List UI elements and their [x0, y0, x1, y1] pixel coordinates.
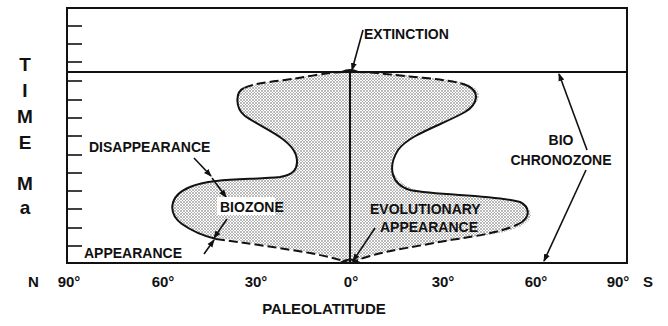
y-axis-label: T I M E M a: [17, 54, 33, 218]
label-biozone: BIOZONE: [220, 199, 284, 215]
x-tick-label: 30°: [432, 273, 455, 290]
label-chronozone: CHRONOZONE: [510, 152, 611, 168]
disappearance-arrow: [194, 158, 211, 176]
x-axis-title: PALEOLATITUDE: [262, 300, 386, 317]
y-label-letter: T: [19, 54, 31, 75]
label-appearance: APPEARANCE: [84, 245, 182, 261]
biozone-diagram: T I M E M a N 90° 60° 30° 0° 30° 60° 90°…: [0, 0, 668, 326]
y-axis-ticks: [67, 26, 82, 246]
y-label-letter: I: [22, 80, 27, 101]
x-tick-label: 60°: [152, 273, 175, 290]
label-evolutionary: EVOLUTIONARY: [370, 201, 481, 217]
appearance-arrow: [204, 240, 214, 254]
x-tick-label: 60°: [525, 273, 548, 290]
y-label-letter: E: [19, 132, 32, 153]
x-axis-ticks: N 90° 60° 30° 0° 30° 60° 90° S: [28, 273, 653, 290]
extinction-arrow: [352, 30, 363, 70]
label-bio: BIO: [549, 132, 574, 148]
label-evolutionary-appearance: APPEARANCE: [380, 219, 478, 235]
x-tick-label: 90°: [58, 273, 81, 290]
x-tick-label: 90°: [607, 273, 630, 290]
x-tick-label: 0°: [344, 273, 358, 290]
label-extinction: EXTINCTION: [364, 26, 449, 42]
south-marker: S: [643, 273, 653, 290]
north-marker: N: [28, 273, 39, 290]
y-label-letter: M: [17, 173, 33, 194]
y-label-letter: M: [17, 106, 33, 127]
chronozone-bottom-arrow: [544, 170, 586, 261]
y-label-letter: a: [20, 197, 31, 218]
x-tick-label: 30°: [245, 273, 268, 290]
label-disappearance: DISAPPEARANCE: [89, 139, 210, 155]
